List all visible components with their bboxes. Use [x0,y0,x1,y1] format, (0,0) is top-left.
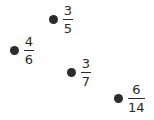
dot-icon [67,68,76,77]
numerator: 3 [82,57,90,70]
point-4: 6 14 [114,83,145,114]
point-3: 3 7 [67,57,91,88]
dot-icon [114,94,123,103]
fraction-bar [128,98,145,99]
fraction: 6 14 [128,83,145,114]
fraction-bar [63,19,73,20]
denominator: 14 [128,101,145,114]
fraction: 3 5 [63,4,73,35]
numerator: 4 [25,35,33,48]
denominator: 7 [82,75,90,88]
fraction: 3 7 [81,57,91,88]
dot-icon [10,46,19,55]
fraction: 4 6 [24,35,34,66]
numerator: 6 [132,83,140,96]
denominator: 5 [64,22,72,35]
point-2: 4 6 [10,35,34,66]
denominator: 6 [25,53,33,66]
dot-icon [49,15,58,24]
numerator: 3 [64,4,72,17]
point-1: 3 5 [49,4,73,35]
fraction-bar [24,50,34,51]
fraction-bar [81,72,91,73]
